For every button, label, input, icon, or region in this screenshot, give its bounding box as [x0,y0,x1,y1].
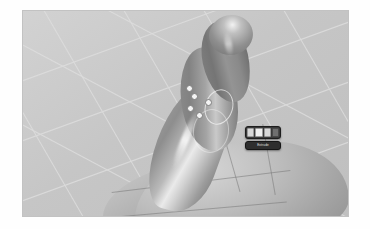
mesh-group[interactable] [141,13,281,213]
app-root: Extrude [0,0,370,229]
vertex-handle-1[interactable] [186,85,193,92]
hud-button-1[interactable] [247,128,254,137]
vertex-handle-4[interactable] [196,112,203,119]
vertex-handle-3[interactable] [187,105,194,112]
3d-viewport[interactable]: Extrude [22,10,349,217]
vertex-handle-5[interactable] [205,99,212,106]
status-badge: Extrude [245,141,281,150]
vertex-handle-2[interactable] [191,93,198,100]
floating-toolbar-buttons[interactable] [245,126,281,139]
hud-button-4[interactable] [272,128,279,137]
hud-button-3[interactable] [264,128,271,137]
hud-button-2[interactable] [255,128,262,137]
floating-toolbar[interactable]: Extrude [245,126,281,150]
